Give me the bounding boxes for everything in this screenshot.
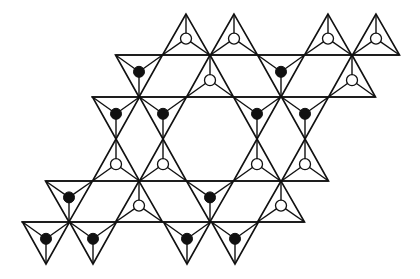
down-triangle [282,97,329,139]
filled-atom-icon [276,66,287,77]
filled-atom-icon [182,233,193,244]
tetrahedral-sheet-diagram [0,0,420,279]
down-triangle [116,55,163,97]
open-atom-icon [252,159,263,170]
up-triangle [116,181,163,222]
down-triangle [187,181,234,222]
filled-atom-icon [111,108,122,119]
down-triangle [258,55,305,97]
down-triangle [46,181,93,222]
filled-atom-icon [41,233,52,244]
up-triangle [211,14,258,55]
filled-atom-icon [88,233,99,244]
filled-atom-icon [300,108,311,119]
open-atom-icon [347,75,358,86]
open-atom-icon [205,75,216,86]
filled-atom-icon [252,108,263,119]
up-triangle [305,14,352,55]
open-atom-icon [134,200,145,211]
up-triangle [234,139,281,181]
diagram-canvas [0,0,420,279]
down-triangle [234,97,281,139]
open-atom-icon [229,33,240,44]
filled-atom-icon [158,108,169,119]
up-triangle [282,139,329,181]
open-atom-icon [111,159,122,170]
filled-atom-icon [205,192,216,203]
filled-atom-icon [64,192,75,203]
filled-atom-icon [230,233,241,244]
triangles [23,14,400,264]
open-atom-icon [158,159,169,170]
down-triangle [140,97,187,139]
up-triangle [353,14,400,55]
up-triangle [187,55,234,97]
open-atom-icon [181,33,192,44]
down-triangle [93,97,140,139]
up-triangle [93,139,140,181]
up-triangle [140,139,187,181]
open-atom-icon [276,200,287,211]
open-atom-icon [300,159,311,170]
up-triangle [258,181,305,222]
down-triangle [23,222,70,264]
down-triangle [164,222,211,264]
open-atom-icon [371,33,382,44]
up-triangle [163,14,210,55]
down-triangle [212,222,259,264]
filled-atom-icon [134,66,145,77]
down-triangle [70,222,117,264]
open-atom-icon [323,33,334,44]
up-triangle [329,55,376,97]
